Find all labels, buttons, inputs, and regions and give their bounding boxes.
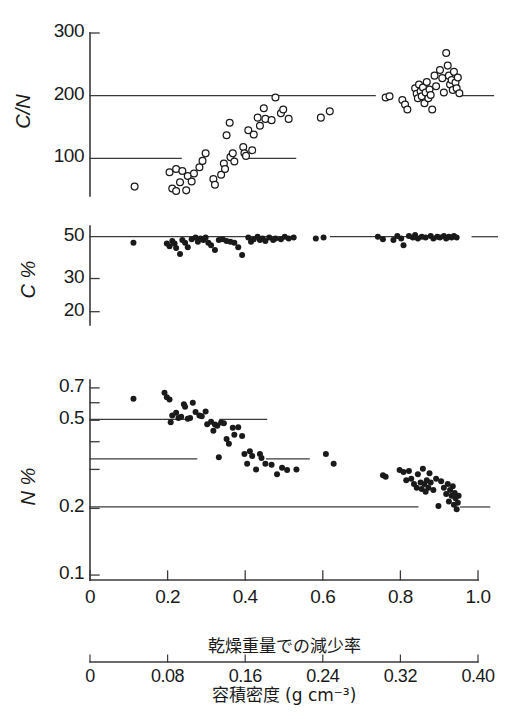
data-point	[428, 479, 434, 485]
data-point	[268, 117, 275, 124]
xaxis-primary-title: 乾燥重量での減少率	[90, 632, 478, 657]
data-point	[216, 454, 222, 460]
data-point	[323, 451, 329, 457]
data-point	[235, 424, 241, 430]
data-point	[221, 420, 227, 426]
data-point	[454, 74, 461, 81]
data-point	[260, 105, 267, 112]
data-point	[223, 132, 230, 139]
panel-cn-ytick-label-2: 300	[6, 20, 84, 42]
data-point	[210, 428, 216, 434]
data-point	[380, 236, 386, 242]
data-point	[446, 498, 452, 504]
data-point	[222, 166, 229, 173]
data-point	[199, 157, 206, 164]
data-point	[430, 487, 436, 493]
data-point	[433, 83, 440, 90]
data-point	[212, 181, 219, 188]
data-point	[183, 187, 190, 194]
data-point	[168, 419, 174, 425]
data-point	[454, 506, 460, 512]
data-point	[404, 106, 411, 113]
data-point	[173, 188, 180, 195]
data-point	[386, 93, 393, 100]
data-point	[231, 432, 237, 438]
data-point	[272, 94, 279, 101]
xaxis-primary-tick-label-2: 0.4	[205, 586, 285, 608]
data-point	[269, 462, 275, 468]
data-point	[321, 235, 327, 241]
xaxis-primary-tick-label-0: 0	[50, 586, 130, 608]
data-point	[262, 461, 268, 467]
data-point	[257, 122, 264, 129]
xaxis-primary-tick-label-3: 0.6	[283, 586, 363, 608]
data-point	[173, 410, 179, 416]
data-point	[243, 152, 250, 159]
data-point	[383, 474, 389, 480]
data-point	[326, 108, 333, 115]
data-point	[331, 461, 337, 467]
data-point	[406, 468, 412, 474]
data-point	[226, 441, 232, 447]
data-point	[203, 235, 209, 241]
data-point	[182, 404, 188, 410]
data-point	[284, 467, 290, 473]
data-point	[420, 466, 426, 472]
data-point	[231, 240, 237, 246]
data-point	[253, 466, 259, 472]
data-point	[230, 425, 236, 431]
data-point	[259, 455, 265, 461]
data-point	[431, 72, 438, 79]
data-point	[249, 147, 256, 154]
data-point	[178, 414, 184, 420]
data-point	[177, 179, 184, 186]
panel-n-ylabel: N %	[17, 468, 40, 506]
data-point	[241, 451, 247, 457]
data-point	[202, 150, 209, 157]
data-point	[439, 75, 446, 82]
panel-c-ytick-label-0: 20	[6, 299, 84, 321]
data-point	[249, 453, 255, 459]
data-point	[199, 413, 205, 419]
data-point	[130, 240, 136, 246]
data-point	[456, 493, 462, 499]
data-point	[401, 242, 407, 248]
data-point	[191, 170, 198, 177]
data-point	[286, 235, 292, 241]
data-point	[190, 400, 196, 406]
plot-canvas	[0, 0, 511, 719]
panel-c-ylabel: C %	[17, 261, 40, 299]
data-point	[403, 477, 409, 483]
data-point	[239, 252, 245, 258]
data-point	[408, 476, 414, 482]
data-point	[250, 131, 257, 138]
data-point	[423, 79, 430, 86]
data-point	[167, 397, 173, 403]
data-point	[443, 50, 450, 57]
data-point	[177, 251, 183, 257]
data-point	[240, 144, 247, 151]
panel-c-ytick-label-2: 50	[6, 224, 84, 246]
xaxis-primary-tick-label-1: 0.2	[128, 586, 208, 608]
data-point	[427, 470, 433, 476]
data-point	[131, 183, 138, 190]
panel-n-ytick-label-6: 0.7	[6, 375, 84, 397]
data-point	[415, 471, 421, 477]
data-point	[226, 119, 233, 126]
data-point	[437, 67, 444, 74]
data-point	[435, 503, 441, 509]
xaxis-secondary-title: 容積密度 (g cm⁻³)	[90, 681, 478, 706]
xaxis-primary-tick-label-5: 1.0	[438, 586, 511, 608]
xaxis-primary-tick-label-4: 0.8	[360, 586, 440, 608]
data-point	[429, 106, 436, 113]
data-point	[229, 150, 236, 157]
data-point	[454, 235, 460, 241]
data-point	[203, 408, 209, 414]
data-point	[456, 90, 463, 97]
data-point	[291, 235, 297, 241]
data-point	[130, 396, 136, 402]
data-point	[173, 245, 179, 251]
data-point	[280, 106, 287, 113]
data-point	[401, 469, 407, 475]
data-point	[444, 62, 451, 69]
